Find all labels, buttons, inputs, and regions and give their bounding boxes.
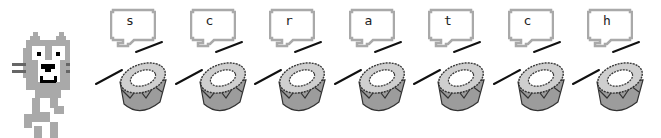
scratch-cat-sprite xyxy=(10,30,70,138)
drum-icon xyxy=(410,38,490,118)
drum-icon xyxy=(331,38,411,118)
bubble-letter: c xyxy=(190,13,230,28)
drum-sprite-5[interactable]: t xyxy=(410,0,490,138)
drum-icon xyxy=(490,38,570,118)
drum-icon xyxy=(172,38,252,118)
bubble-letter: s xyxy=(110,13,150,28)
drum-sprite-7[interactable]: h xyxy=(569,0,649,138)
bubble-letter: r xyxy=(269,13,309,28)
drum-icon xyxy=(92,38,172,118)
drum-sprite-3[interactable]: r xyxy=(251,0,331,138)
cat-icon xyxy=(10,30,70,138)
bubble-letter: a xyxy=(349,13,389,28)
bubble-letter: c xyxy=(508,13,548,28)
drum-sprite-4[interactable]: a xyxy=(331,0,411,138)
drum-icon xyxy=(569,38,649,118)
drum-sprite-2[interactable]: c xyxy=(172,0,252,138)
drum-icon xyxy=(251,38,331,118)
drum-sprite-6[interactable]: c xyxy=(490,0,570,138)
bubble-letter: t xyxy=(428,13,468,28)
bubble-letter: h xyxy=(587,13,627,28)
drum-sprite-1[interactable]: s xyxy=(92,0,172,138)
